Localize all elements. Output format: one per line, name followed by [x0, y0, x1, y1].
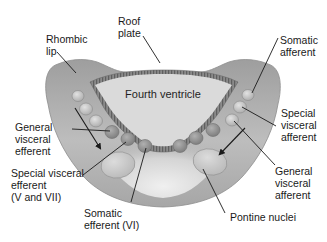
label-somatic-efferent: Somatic efferent (VI) [84, 207, 139, 231]
label-somatic-afferent: Somatic afferent [280, 34, 321, 58]
pons-diagram: Fourth ventricle [0, 0, 327, 242]
label-pontine-nuclei: Pontine nuclei [230, 211, 296, 223]
label-roof-plate: Roof plate [118, 15, 143, 39]
fourth-ventricle-label: Fourth ventricle [125, 88, 201, 100]
label-special-visceral-efferent: Special visceral efferent (V and VII) [11, 167, 87, 203]
label-general-visceral-efferent: General visceral efferent [15, 121, 55, 157]
label-rhombic-lip: Rhombic lip [46, 33, 90, 57]
label-general-visceral-afferent: General visceral afferent [275, 165, 315, 201]
label-special-visceral-afferent: Special visceral afferent [281, 107, 320, 143]
